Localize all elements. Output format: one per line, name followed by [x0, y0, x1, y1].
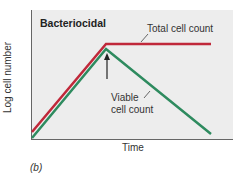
x-axis-label: Time	[122, 142, 144, 153]
chart-title: Bacteriocidal	[40, 17, 106, 29]
arrow-head-icon	[104, 53, 110, 60]
viable-leader-line	[144, 91, 150, 98]
total-cell-count-line	[32, 44, 211, 132]
total-leader-line	[141, 34, 148, 42]
total-cell-count-label: Total cell count	[147, 23, 213, 34]
y-axis-label: Log cell number	[2, 42, 13, 113]
panel-label: (b)	[30, 162, 42, 173]
viable-label-line2: cell count	[111, 104, 153, 115]
viable-label-line1: Viable	[111, 92, 139, 103]
